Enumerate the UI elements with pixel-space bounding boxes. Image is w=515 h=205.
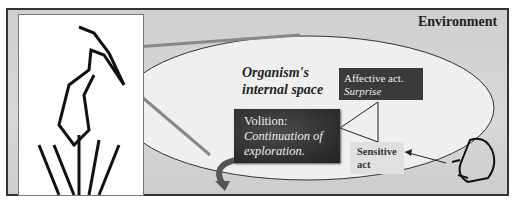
volition-line2: exploration. (244, 144, 305, 158)
environment-label: Environment (418, 14, 497, 30)
organism-label: Organism's internal space (242, 64, 323, 98)
sensitive-line1: Sensitive (357, 145, 397, 158)
affective-act-box: Affective act. Surprise (339, 68, 423, 100)
volition-box: Volition: Continuation of exploration. (234, 109, 340, 163)
sensitive-line2: act (357, 158, 397, 171)
volition-title: Volition: (244, 114, 330, 129)
organism-label-line1: Organism's (242, 64, 323, 81)
frog-icon (0, 0, 515, 205)
volition-line1: Continuation of (244, 129, 323, 143)
affective-subtitle: Surprise (344, 85, 381, 97)
organism-label-line2: internal space (242, 81, 323, 98)
affective-title: Affective act. (344, 72, 418, 85)
sensitive-act-box: Sensitive act (350, 142, 404, 174)
